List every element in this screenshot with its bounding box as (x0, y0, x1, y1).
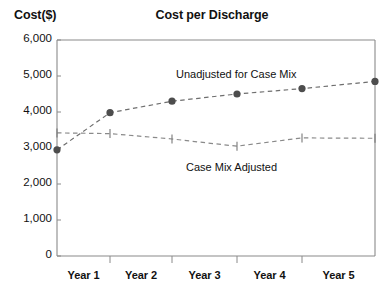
y-tick-label-text: 4,000 (8, 104, 52, 116)
x-axis-ticks (110, 256, 302, 263)
y-tick-label-text: 6,000 (8, 32, 52, 44)
y-tick-label-text: 0 (8, 248, 52, 260)
series-markers (53, 78, 378, 154)
y-tick-label-text: 2,000 (8, 176, 52, 188)
y-tick-label-text: 5,000 (8, 68, 52, 80)
series-annotation-label: Case Mix Adjusted (186, 161, 277, 173)
x-tick-label: Year 5 (299, 269, 379, 281)
x-tick-label: Year 4 (230, 269, 310, 281)
plot-area (0, 0, 386, 298)
series-lines (57, 81, 375, 149)
series-annotation-label: Unadjusted for Case Mix (176, 68, 296, 80)
chart-container: Cost($) Cost per Discharge 01,0002,0003,… (0, 0, 386, 298)
y-tick-label-text: 3,000 (8, 140, 52, 152)
y-tick-label-text: 1,000 (8, 212, 52, 224)
